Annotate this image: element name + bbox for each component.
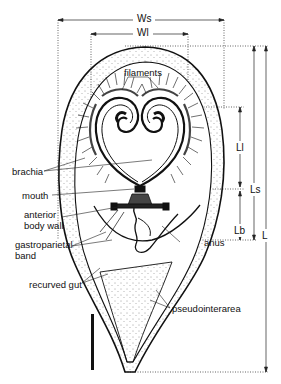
label-pseudointerarea: pseudointerarea [172,303,241,314]
dimension-ws: Ws [133,13,155,24]
label-anterior-body-wall-line2: body wall [24,220,64,231]
dimension-wl: Wl [133,27,153,38]
dimension-l: L [262,229,268,242]
label-filaments: filaments [124,67,162,78]
dimension-lb: Lb [234,224,245,237]
label-gastroparietal-band-line2: band [15,250,36,261]
label-gastroparietal-band-line1: gastroparietal [15,239,73,250]
dimension-ls: Ls [249,183,262,196]
label-recurved-gut: recurved gut [29,279,82,290]
shell [59,47,224,372]
scale-bar [91,314,94,370]
label-brachia: brachia [12,166,43,177]
label-mouth: mouth [22,190,48,201]
label-anterior-body-wall-line1: anterior [24,209,56,220]
label-anus: anus [204,237,225,248]
dimension-ll: Ll [236,141,244,154]
